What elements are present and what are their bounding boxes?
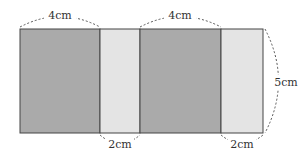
label-width-bottom-second: 2cm xyxy=(230,138,254,151)
label-height-right: 5cm xyxy=(274,76,298,89)
prism-net-diagram: 4cm 4cm 2cm 2cm 5cm xyxy=(0,0,308,157)
face-narrow-2 xyxy=(221,29,263,133)
label-width-top-left: 4cm xyxy=(48,9,72,22)
face-wide-1 xyxy=(20,29,100,133)
face-wide-2 xyxy=(140,29,221,133)
face-narrow-1 xyxy=(100,29,140,133)
label-width-top-middle: 4cm xyxy=(168,9,192,22)
label-width-bottom-first: 2cm xyxy=(108,138,132,151)
